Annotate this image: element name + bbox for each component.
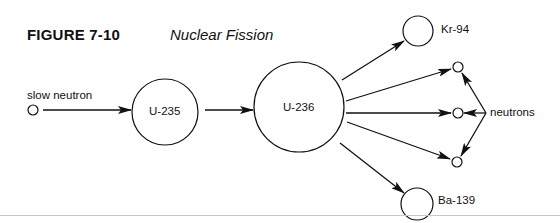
bottom-divider (0, 215, 560, 216)
fission-diagram (0, 0, 560, 223)
pointer-neutrons-to-neutron-3 (461, 113, 486, 156)
kr94-label: Kr-94 (441, 24, 469, 36)
pointer-neutrons-to-neutron-1 (462, 73, 486, 113)
neutrons-label: neutrons (490, 107, 535, 119)
u236-label: U-236 (283, 102, 314, 114)
slow-neutron-particle (28, 105, 38, 115)
released-neutron-3 (452, 157, 462, 167)
kr94-nucleus (403, 16, 433, 46)
arrow-u236-to-neutron-1 (346, 69, 451, 101)
u235-label: U-235 (149, 106, 180, 118)
released-neutron-2 (453, 108, 463, 118)
ba139-label: Ba-139 (438, 195, 475, 207)
arrow-u236-to-neutron-3 (347, 122, 450, 159)
arrow-u236-to-ba139 (340, 143, 404, 193)
arrow-u236-to-kr94 (342, 41, 404, 80)
slow-neutron-label: slow neutron (27, 90, 92, 102)
released-neutron-1 (453, 62, 463, 72)
